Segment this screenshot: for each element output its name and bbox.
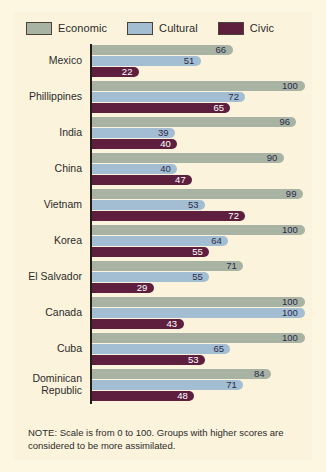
bar-value-label: 48 [177,390,188,402]
bar-value-label: 40 [160,138,171,150]
bar-row: 48 [92,391,312,401]
bar-civic [92,103,230,113]
bar-row: 40 [92,164,312,174]
bar-row: 65 [92,103,312,113]
bar-value-label: 53 [188,354,199,366]
bar-row: 47 [92,175,312,185]
bar-value-label: 43 [167,318,178,330]
bar-value-label: 84 [254,368,265,380]
bars-container: 665122 [92,45,312,78]
bar-value-label: 22 [122,66,133,78]
bar-row: 39 [92,128,312,138]
bar-cultural [92,380,243,390]
chart-card: EconomicCulturalCivic Mexico665122Philli… [14,12,312,460]
bar-row: 55 [92,247,312,257]
chart-note: NOTE: Scale is from 0 to 100. Groups wit… [28,427,300,452]
bar-group: China904047 [14,152,312,188]
legend-swatch-civic-icon [218,22,244,35]
category-label: El Salvador [8,271,82,283]
bar-row: 72 [92,211,312,221]
legend-item-economic: Economic [26,22,107,35]
bar-group: Mexico665122 [14,44,312,80]
bar-group: Korea1006455 [14,224,312,260]
bar-group: Vietnam995372 [14,188,312,224]
bar-value-label: 29 [137,282,148,294]
bar-row: 66 [92,45,312,55]
bar-economic [92,333,305,343]
legend-item-civic: Civic [218,22,274,35]
bar-economic [92,153,284,163]
bar-row: 100 [92,333,312,343]
category-label: India [8,127,82,139]
bars-container: 10010043 [92,297,312,330]
category-label: Dominican Republic [8,373,82,396]
bar-value-label: 47 [175,174,186,186]
bar-economic [92,261,243,271]
bars-container: 1007265 [92,81,312,114]
bar-row: 51 [92,56,312,66]
bar-row: 71 [92,261,312,271]
bar-value-label: 51 [184,55,195,67]
bar-value-label: 71 [226,260,237,272]
bar-economic [92,45,233,55]
legend-label: Cultural [159,22,198,34]
bar-value-label: 100 [282,307,298,319]
bar-cultural [92,92,245,102]
chart-legend: EconomicCulturalCivic [14,12,312,42]
bar-row: 55 [92,272,312,282]
bar-group: Phillippines1007265 [14,80,312,116]
bar-value-label: 100 [282,80,298,92]
bar-value-label: 65 [213,343,224,355]
bar-row: 29 [92,283,312,293]
bars-container: 715529 [92,261,312,294]
bar-value-label: 66 [216,44,227,56]
bar-value-label: 71 [226,379,237,391]
category-label: China [8,163,82,175]
bar-groups: Mexico665122Phillippines1007265India9639… [14,44,312,404]
bar-economic [92,225,305,235]
bars-container: 904047 [92,153,312,186]
bar-row: 100 [92,81,312,91]
bar-row: 100 [92,225,312,235]
bar-value-label: 53 [188,199,199,211]
bars-container: 995372 [92,189,312,222]
legend-swatch-economic-icon [26,22,52,35]
bar-row: 99 [92,189,312,199]
bar-cultural [92,236,228,246]
bar-value-label: 90 [267,152,278,164]
bar-economic [92,297,305,307]
bar-row: 40 [92,139,312,149]
bar-value-label: 55 [192,246,203,258]
bar-cultural [92,308,305,318]
bar-row: 72 [92,92,312,102]
bar-group: Cuba1006553 [14,332,312,368]
legend-item-cultural: Cultural [127,22,198,35]
bar-economic [92,81,305,91]
bar-row: 100 [92,297,312,307]
chart-plot-area: Mexico665122Phillippines1007265India9639… [14,44,312,406]
bar-value-label: 65 [213,102,224,114]
bars-container: 1006455 [92,225,312,258]
bar-group: India963940 [14,116,312,152]
bar-value-label: 96 [279,116,290,128]
category-label: Mexico [8,55,82,67]
bars-container: 1006553 [92,333,312,366]
category-label: Phillippines [8,91,82,103]
bar-value-label: 64 [211,235,222,247]
bar-value-label: 55 [192,271,203,283]
bar-economic [92,369,271,379]
bar-value-label: 72 [228,210,239,222]
bar-value-label: 100 [282,332,298,344]
bars-container: 847148 [92,369,312,402]
bars-container: 963940 [92,117,312,150]
bar-civic [92,211,245,221]
bar-row: 71 [92,380,312,390]
bar-value-label: 99 [286,188,297,200]
category-label: Cuba [8,343,82,355]
category-label: Canada [8,307,82,319]
bar-economic [92,189,303,199]
bar-cultural [92,344,230,354]
bar-value-label: 100 [282,224,298,236]
bar-row: 96 [92,117,312,127]
legend-label: Economic [58,22,107,34]
